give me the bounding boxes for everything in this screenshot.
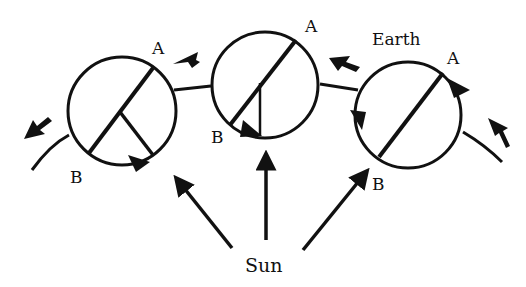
label-sun: Sun xyxy=(245,254,283,276)
label-left-a: A xyxy=(151,38,165,58)
rotation-arrow-icon xyxy=(350,110,366,130)
motion-arrow-icon xyxy=(173,52,200,68)
label-mid-b: B xyxy=(211,127,224,147)
rotation-arrow-icon xyxy=(240,120,262,137)
earth-middle xyxy=(212,32,318,138)
motion-arrow-icon xyxy=(24,117,52,139)
earth-orbit-diagram: A B A B Earth A B Sun xyxy=(0,0,526,287)
label-right-b: B xyxy=(372,174,385,194)
sunlight-arrows xyxy=(180,160,363,250)
label-left-b: B xyxy=(70,167,83,187)
earth-left xyxy=(68,57,176,172)
orbital-motion-arrows xyxy=(24,52,510,148)
rotation-arrow-icon xyxy=(447,78,470,98)
label-earth: Earth xyxy=(372,29,421,49)
motion-arrow-icon xyxy=(488,118,510,148)
orbit-path xyxy=(32,84,502,170)
motion-arrow-icon xyxy=(329,56,360,72)
earth-right xyxy=(350,62,470,168)
label-mid-a: A xyxy=(304,16,318,36)
label-right-a: A xyxy=(446,48,460,68)
